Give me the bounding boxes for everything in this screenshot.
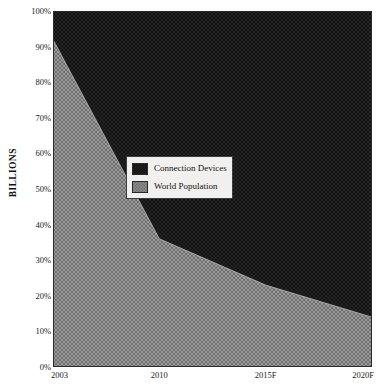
y-axis-tick-label: 50% (3, 185, 51, 194)
y-axis-tick-label: 40% (3, 221, 51, 230)
x-axis-tick-labels: 200320102015F2020F (0, 371, 389, 389)
y-axis-tick-label: 70% (3, 114, 51, 123)
legend-swatch-icon-connection-devices (132, 163, 148, 175)
x-axis-tick-label: 2015F (255, 371, 277, 380)
y-axis-tick-label: 100% (3, 7, 51, 16)
x-axis-tick-label: 2010 (151, 371, 168, 380)
y-axis-tick-label: 20% (3, 292, 51, 301)
x-axis-tick-label: 2020F (352, 371, 374, 380)
legend-label-connection-devices: Connection Devices (154, 164, 227, 173)
y-axis-tick-labels: 0%10%20%30%40%50%60%70%80%90%100% (0, 0, 51, 390)
area-chart: BILLIONS 0%10%20%30%40%50%60%70%80%90%10… (0, 0, 389, 390)
legend-item-world-population: World Population (132, 179, 227, 194)
legend-label-world-population: World Population (154, 182, 218, 191)
y-axis-tick-label: 80% (3, 78, 51, 87)
y-axis-tick-label: 60% (3, 149, 51, 158)
y-axis-tick-label: 90% (3, 43, 51, 52)
legend-swatch-icon-world-population (132, 181, 148, 193)
y-axis-tick-label: 30% (3, 256, 51, 265)
chart-legend: Connection Devices World Population (126, 156, 233, 199)
x-axis-tick-label: 2003 (51, 371, 68, 380)
legend-item-connection-devices: Connection Devices (132, 161, 227, 176)
y-axis-tick-label: 10% (3, 327, 51, 336)
